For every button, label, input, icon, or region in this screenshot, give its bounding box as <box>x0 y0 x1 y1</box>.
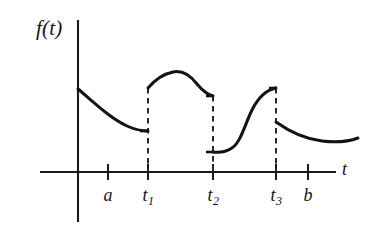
tick-label-a: a <box>104 186 113 204</box>
tick-label-t1: t1 <box>142 186 153 204</box>
tick-label-b: b <box>304 186 313 204</box>
tick-label-t3-text: t <box>270 185 275 205</box>
x-axis-label: t <box>342 160 347 178</box>
curve-segment-1 <box>78 89 148 131</box>
tick-label-t2-text: t <box>207 185 212 205</box>
tick-label-t3-subscript: 3 <box>276 194 282 208</box>
curve-segment-4 <box>276 122 358 142</box>
tick-label-a-text: a <box>104 185 113 205</box>
tick-label-t1-text: t <box>142 185 147 205</box>
tick-label-t2: t2 <box>207 186 218 204</box>
y-axis-label: f(t) <box>36 18 62 39</box>
tick-label-b-text: b <box>304 185 313 205</box>
curve-segment-2 <box>148 72 213 96</box>
tick-label-t2-subscript: 2 <box>213 194 219 208</box>
curve-segment-3 <box>213 88 276 152</box>
tick-label-t1-subscript: 1 <box>148 194 154 208</box>
tick-label-t3: t3 <box>270 186 281 204</box>
figure-container: f(t) t a t1 t2 t3 b <box>0 0 372 237</box>
